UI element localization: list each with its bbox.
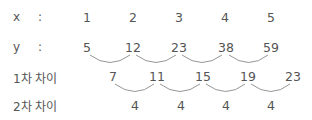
arc	[229, 55, 268, 63]
arc	[206, 84, 245, 92]
difference-arcs	[0, 0, 312, 120]
arc	[136, 55, 176, 63]
arc	[182, 55, 222, 63]
arc	[90, 55, 130, 63]
arc	[160, 84, 200, 92]
arc	[115, 84, 154, 92]
arc	[251, 84, 290, 92]
